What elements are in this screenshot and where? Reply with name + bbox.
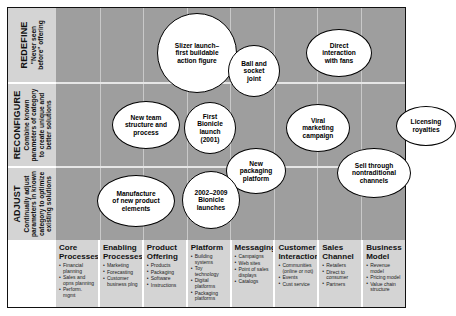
category-column[interactable]: BusinessModelRevenue modelPricing modelV… bbox=[363, 240, 405, 307]
axis-bottom-spacer bbox=[8, 240, 56, 307]
bubble-label: Sell throughnontraditionalchannels bbox=[352, 162, 396, 185]
category-title: BusinessModel bbox=[366, 243, 403, 261]
category-header-row: CoreProcessesFinancial planningSales and… bbox=[56, 240, 405, 307]
category-item: Revenue model bbox=[366, 263, 403, 274]
category-column[interactable]: MessagingCampaignsWeb sitesPoint of sale… bbox=[232, 240, 274, 307]
category-item: Catalogs bbox=[235, 279, 272, 285]
category-item: Point of sales displays bbox=[235, 267, 272, 278]
bubble-label: Licensingroyalties bbox=[411, 118, 442, 133]
category-title: Messaging bbox=[235, 243, 272, 252]
axis-row-title: RECONFIGURE bbox=[12, 84, 22, 166]
axis-row-redefine: REDEFINE"Never seenbefore" offering bbox=[8, 8, 56, 82]
innovation-bubble[interactable]: New teamstructure andprocess bbox=[112, 101, 180, 149]
category-item: Partners bbox=[322, 282, 359, 288]
category-item-list: Communities (online or not)EventsCust se… bbox=[278, 263, 315, 287]
bubble-label: New teamstructure andprocess bbox=[125, 114, 167, 137]
axis-row-subtitle: Continually adjustparameters in knowncat… bbox=[23, 168, 53, 240]
category-item: Financial planning bbox=[59, 263, 96, 274]
category-item: Instructions bbox=[147, 283, 184, 289]
category-column[interactable]: SalesChannelRetailersDirect to consumerP… bbox=[319, 240, 361, 307]
category-item: Building systems bbox=[191, 254, 228, 265]
category-item: Software bbox=[147, 276, 184, 282]
category-item-list: CampaignsWeb sitesPoint of sales display… bbox=[235, 254, 272, 285]
innovation-bubble[interactable]: 2002–2009Bioniclelaunches bbox=[182, 171, 240, 229]
category-column[interactable]: ProductOfferingProductsPackagingSoftware… bbox=[144, 240, 186, 307]
axis-row-subtitle: Combine knownparameters of categoryto cr… bbox=[23, 84, 53, 166]
category-title: SalesChannel bbox=[322, 243, 359, 261]
category-item: Products bbox=[147, 263, 184, 269]
category-item: Toy technology bbox=[191, 266, 228, 277]
axis-row-title: ADJUST bbox=[12, 168, 22, 240]
axis-row-adjust: ADJUSTContinually adjustparameters in kn… bbox=[8, 168, 56, 240]
bubble-label: 2002–2009Bioniclelaunches bbox=[194, 189, 227, 212]
bubble-label: Manufactureof new productelements bbox=[112, 190, 159, 213]
category-item: Perform. mgmt bbox=[59, 287, 96, 298]
category-item-list: ProductsPackagingSoftwareInstructions bbox=[147, 263, 184, 288]
axis-divider-1 bbox=[8, 166, 56, 168]
category-item-list: MarketingForecastingCustomer business pl… bbox=[103, 263, 140, 287]
category-item-list: Building systemsToy technologyDigital pl… bbox=[191, 254, 228, 302]
category-title: CustomerInteraction bbox=[278, 243, 315, 261]
category-item: Packaging platforms bbox=[191, 291, 228, 302]
category-item: Value chain structure bbox=[366, 282, 403, 293]
innovation-bubble[interactable]: Ball andsocketjoint bbox=[228, 45, 280, 97]
innovation-bubble[interactable]: Licensingroyalties bbox=[396, 106, 456, 146]
plot-area: Slizer launch–first buildableaction figu… bbox=[56, 8, 405, 240]
category-item: Marketing bbox=[103, 263, 140, 269]
axis-row-reconfigure: RECONFIGURECombine knownparameters of ca… bbox=[8, 84, 56, 166]
innovation-bubble[interactable]: Viralmarketingcampaign bbox=[286, 104, 350, 152]
bubble-label: Ball andsocketjoint bbox=[241, 60, 267, 83]
category-item-list: RetailersDirect to consumerPartners bbox=[322, 263, 359, 287]
diagram-frame: REDEFINE"Never seenbefore" offeringRECON… bbox=[7, 7, 406, 308]
innovation-bubble[interactable]: Manufactureof new productelements bbox=[97, 175, 175, 227]
category-item: Customer business plng bbox=[103, 276, 140, 287]
grid-vline-5 bbox=[274, 8, 275, 240]
bubble-label: Viralmarketingcampaign bbox=[302, 117, 334, 140]
innovation-bubble[interactable]: Sell throughnontraditionalchannels bbox=[337, 148, 411, 198]
category-title: ProductOffering bbox=[147, 243, 184, 261]
category-column[interactable]: CoreProcessesFinancial planningSales and… bbox=[56, 240, 98, 307]
category-item: Events bbox=[278, 275, 315, 281]
innovation-bubble[interactable]: FirstBioniclelaunch(2001) bbox=[184, 102, 236, 154]
bubble-label: FirstBioniclelaunch(2001) bbox=[197, 113, 223, 143]
category-title: CoreProcesses bbox=[59, 243, 96, 261]
category-item: Campaigns bbox=[235, 254, 272, 260]
category-item: Digital platforms bbox=[191, 278, 228, 289]
category-item: Retailers bbox=[322, 263, 359, 269]
category-item: Pricing model bbox=[366, 275, 403, 281]
category-title: EnablingProcesses bbox=[103, 243, 140, 261]
bubble-label: Directinteractionwith fans bbox=[322, 42, 356, 65]
category-column[interactable]: PlatformBuilding systemsToy technologyDi… bbox=[188, 240, 230, 307]
category-item: Cust service bbox=[278, 282, 315, 288]
axis-row-subtitle: "Never seenbefore" offering bbox=[30, 8, 45, 82]
bubble-label: Slizer launch–first buildableaction figu… bbox=[175, 42, 219, 65]
category-item: Sales and opns planning bbox=[59, 275, 96, 286]
category-column[interactable]: EnablingProcessesMarketingForecastingCus… bbox=[100, 240, 142, 307]
axis-row-title: REDEFINE bbox=[19, 8, 29, 82]
bubble-label: Newpackagingplatform bbox=[240, 160, 273, 183]
category-column[interactable]: CustomerInteractionCommunities (online o… bbox=[275, 240, 317, 307]
innovation-bubble[interactable]: Directinteractionwith fans bbox=[306, 29, 372, 77]
innovation-bubble[interactable]: Slizer launch–first buildableaction figu… bbox=[157, 13, 237, 93]
category-title: Platform bbox=[191, 243, 228, 252]
category-item: Direct to consumer bbox=[322, 270, 359, 281]
category-item: Communities (online or not) bbox=[278, 263, 315, 274]
category-item-list: Financial planningSales and opns plannin… bbox=[59, 263, 96, 299]
axis-divider-0 bbox=[8, 82, 56, 84]
category-item-list: Revenue modelPricing modelValue chain st… bbox=[366, 263, 403, 293]
